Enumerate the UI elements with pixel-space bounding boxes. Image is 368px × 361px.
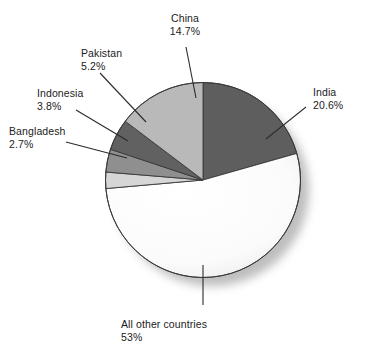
pie-chart-canvas: India 20.6%All other countries 53%Bangla… [0,0,368,361]
label-bangladesh: Bangladesh 2.7% [9,125,66,150]
label-pakistan: Pakistan 5.2% [81,47,122,72]
label-all-other-name: All other countries [121,318,207,331]
leader-line-pakistan [100,73,146,122]
label-indonesia: Indonesia 3.8% [37,87,83,112]
label-india: India 20.6% [313,86,343,111]
label-indonesia-percent: 3.8% [37,100,83,113]
leader-line-indonesia [76,110,128,141]
label-bangladesh-name: Bangladesh [9,125,66,138]
pie-slice-group: India 20.6%All other countries 53%Bangla… [106,83,301,278]
label-india-percent: 20.6% [313,99,343,112]
label-india-name: India [313,86,343,99]
label-china-percent: 14.7% [152,25,218,38]
label-indonesia-name: Indonesia [37,87,83,100]
label-pakistan-name: Pakistan [81,47,122,60]
label-all-other-countries: All other countries 53% [121,318,207,343]
label-all-other-percent: 53% [121,331,207,344]
label-pakistan-percent: 5.2% [81,60,122,73]
pie-chart-figure: India 20.6%All other countries 53%Bangla… [0,0,368,361]
label-bangladesh-percent: 2.7% [9,138,66,151]
label-china-name: China [152,12,218,25]
label-china: China 14.7% [152,12,218,37]
